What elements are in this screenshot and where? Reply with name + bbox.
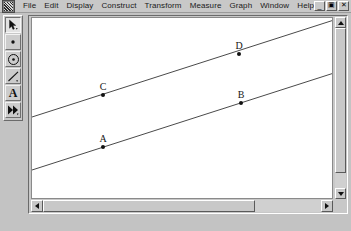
compass-circle-tool[interactable]: [5, 51, 21, 67]
arrow-cursor-icon: [7, 19, 19, 31]
menu-transform[interactable]: Transform: [141, 0, 186, 12]
menu-graph[interactable]: Graph: [225, 0, 256, 12]
chevron-down-icon: [338, 192, 344, 196]
window-controls: _ ▣ ✕: [314, 1, 349, 11]
menu-display[interactable]: Display: [62, 0, 97, 12]
close-button[interactable]: ✕: [338, 1, 349, 11]
line-segment-icon: [7, 70, 20, 83]
scroll-up-button[interactable]: [335, 17, 346, 28]
minimize-button[interactable]: _: [314, 1, 325, 11]
point-A[interactable]: [101, 145, 105, 149]
vertical-scroll-thumb[interactable]: [335, 28, 346, 173]
scroll-down-button[interactable]: [335, 188, 346, 199]
point-D[interactable]: [237, 52, 241, 56]
chevron-left-icon: [35, 203, 39, 209]
text-a-icon: A: [9, 87, 18, 99]
point-C-label[interactable]: C: [100, 81, 107, 92]
horizontal-scroll-thumb[interactable]: [43, 200, 255, 212]
point-B[interactable]: [239, 101, 243, 105]
menu-edit[interactable]: Edit: [40, 0, 62, 12]
chevron-right-icon: [325, 203, 329, 209]
restore-button[interactable]: ▣: [326, 1, 337, 11]
circle-icon: [7, 53, 20, 66]
sketchpad-app-icon[interactable]: [2, 0, 15, 13]
line-AB[interactable]: [32, 73, 332, 170]
double-arrow-icon: [7, 104, 20, 116]
point-D-label[interactable]: D: [235, 40, 242, 51]
point-C[interactable]: [101, 93, 105, 97]
point-tool[interactable]: [5, 34, 21, 50]
close-icon: ✕: [339, 1, 348, 9]
line-CD[interactable]: [32, 20, 332, 117]
text-tool[interactable]: A: [5, 85, 21, 101]
horizontal-scrollbar[interactable]: [31, 200, 333, 212]
scroll-left-button[interactable]: [31, 200, 43, 212]
straightedge-tool[interactable]: [5, 68, 21, 84]
point-A-label[interactable]: A: [99, 133, 107, 144]
minimize-icon: _: [315, 2, 324, 10]
selection-arrow-tool[interactable]: [5, 17, 21, 33]
menu-window[interactable]: Window: [256, 0, 293, 12]
point-B-label[interactable]: B: [238, 89, 245, 100]
point-icon: [7, 36, 19, 48]
sketchpad-window: File Edit Display Construct Transform Me…: [0, 0, 351, 231]
menu-bar: File Edit Display Construct Transform Me…: [0, 0, 351, 13]
menu-measure[interactable]: Measure: [186, 0, 226, 12]
scroll-right-button[interactable]: [321, 200, 333, 212]
custom-tool[interactable]: [5, 102, 21, 118]
geometry-figure: ABCD: [32, 18, 332, 198]
chevron-up-icon: [338, 21, 344, 25]
menu-construct[interactable]: Construct: [97, 0, 140, 12]
restore-icon: ▣: [327, 1, 336, 9]
sketch-canvas[interactable]: ABCD: [31, 17, 333, 199]
toolbox: A: [3, 15, 23, 121]
vertical-scrollbar[interactable]: [335, 17, 346, 199]
menu-file[interactable]: File: [19, 0, 40, 12]
points-group: ABCD: [99, 40, 244, 149]
document-frame: ABCD: [28, 15, 348, 214]
lines-group: [32, 20, 332, 170]
